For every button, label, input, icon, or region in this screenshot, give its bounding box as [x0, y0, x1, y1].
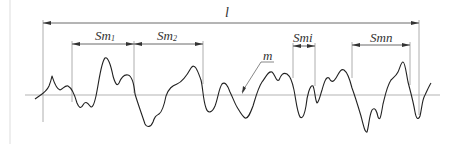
- roughness-profile-diagram: l Sm1 Sm2 Smi Smn m: [0, 0, 457, 144]
- mean-line-label: m: [263, 48, 272, 63]
- sm2-label: Sm2: [157, 28, 177, 43]
- smi-label: Smi: [293, 30, 313, 45]
- sm1-label: Sm1: [95, 28, 115, 43]
- smn-label: Smn: [370, 30, 392, 45]
- sampling-length-label: l: [225, 5, 229, 20]
- mean-line-leader: [242, 62, 274, 92]
